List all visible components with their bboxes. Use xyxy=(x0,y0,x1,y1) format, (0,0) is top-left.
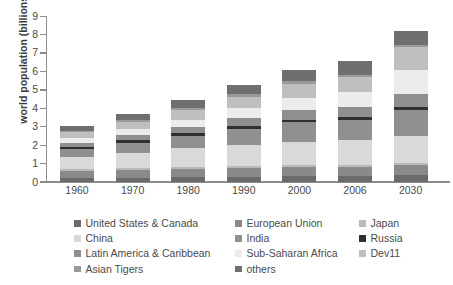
bar-segment[interactable] xyxy=(60,171,94,178)
bar-segment[interactable] xyxy=(394,165,428,174)
bar-segment[interactable] xyxy=(282,98,316,110)
bar-segment[interactable] xyxy=(282,167,316,176)
bar-segment[interactable] xyxy=(116,122,150,130)
bar-segment[interactable] xyxy=(227,145,261,166)
legend-swatch-icon xyxy=(359,250,366,257)
bar-segment[interactable] xyxy=(171,136,205,149)
legend-item[interactable]: others xyxy=(235,262,276,277)
legend-item[interactable]: China xyxy=(74,231,113,246)
bar-segment[interactable] xyxy=(116,153,150,168)
y-axis-tick-label: 0 xyxy=(16,177,38,188)
bar-segment[interactable] xyxy=(227,168,261,177)
legend-swatch-icon xyxy=(74,266,81,273)
x-axis-tick-label: 1990 xyxy=(219,185,269,196)
x-axis-tick-label: 2030 xyxy=(386,185,436,196)
legend-swatch-icon xyxy=(359,235,366,242)
bar-segment[interactable] xyxy=(394,110,428,137)
bar-segment[interactable] xyxy=(338,61,372,74)
bar-stack[interactable] xyxy=(227,85,261,182)
legend-item[interactable]: Russia xyxy=(359,231,403,246)
legend-label: Japan xyxy=(371,218,400,229)
bar-group[interactable] xyxy=(116,16,150,182)
bar-segment[interactable] xyxy=(171,100,205,108)
bar-segment[interactable] xyxy=(227,118,261,126)
bar-segment[interactable] xyxy=(338,167,372,176)
bar-segment[interactable] xyxy=(282,84,316,98)
bar-segment[interactable] xyxy=(338,77,372,92)
bar-segment[interactable] xyxy=(227,85,261,95)
legend-item[interactable]: Japan xyxy=(359,216,399,231)
x-axis-tick-label: 2006 xyxy=(330,185,380,196)
bar-segment[interactable] xyxy=(338,92,372,106)
bar-segment[interactable] xyxy=(338,176,372,182)
bar-segment[interactable] xyxy=(227,108,261,117)
legend-item[interactable]: Latin America & Caribbean xyxy=(74,246,210,261)
legend-item[interactable]: United States & Canada xyxy=(74,216,198,231)
legend-swatch-icon xyxy=(235,250,242,257)
legend-row: Latin America & CaribbeanSub-Saharan Afr… xyxy=(74,246,446,261)
bar-segment[interactable] xyxy=(282,122,316,141)
bar-segment[interactable] xyxy=(116,178,150,182)
legend-label: Sub-Saharan Africa xyxy=(247,248,338,259)
bar-segment[interactable] xyxy=(338,107,372,117)
bar-segment[interactable] xyxy=(394,94,428,107)
bar-group[interactable] xyxy=(60,16,94,182)
bar-segment[interactable] xyxy=(171,148,205,166)
bar-segment[interactable] xyxy=(282,142,316,165)
bar-segment[interactable] xyxy=(394,136,428,163)
bar-segment[interactable] xyxy=(227,129,261,145)
bar-segment[interactable] xyxy=(227,177,261,182)
bar-segment[interactable] xyxy=(171,177,205,182)
legend-label: Dev11 xyxy=(371,248,401,259)
bar-stack[interactable] xyxy=(394,31,428,182)
bar-stack[interactable] xyxy=(171,100,205,182)
bar-segment[interactable] xyxy=(227,97,261,109)
bar-segment[interactable] xyxy=(338,140,372,164)
bar-stack[interactable] xyxy=(282,70,316,182)
y-axis-tick-labels: 0123456789 xyxy=(16,0,40,285)
bar-segment[interactable] xyxy=(60,149,94,157)
y-axis-tick-label: 8 xyxy=(16,29,38,40)
legend-swatch-icon xyxy=(74,235,81,242)
legend-item[interactable]: Sub-Saharan Africa xyxy=(235,246,338,261)
bar-segment[interactable] xyxy=(171,120,205,127)
bar-segment[interactable] xyxy=(394,31,428,45)
legend-item[interactable]: Asian Tigers xyxy=(74,262,143,277)
bar-segment[interactable] xyxy=(60,178,94,182)
bar-segment[interactable] xyxy=(171,127,205,134)
legend-item[interactable]: European Union xyxy=(235,216,322,231)
y-axis-tick-label: 5 xyxy=(16,84,38,95)
legend-row: United States & CanadaEuropean UnionJapa… xyxy=(74,216,446,231)
legend-label: Latin America & Caribbean xyxy=(86,248,211,259)
bar-group[interactable] xyxy=(394,16,428,182)
bar-segment[interactable] xyxy=(116,170,150,178)
bar-segment[interactable] xyxy=(116,143,150,153)
chart-figure: world population (billions) 0123456789 1… xyxy=(0,0,453,285)
y-axis-tick-label: 4 xyxy=(16,103,38,114)
legend-swatch-icon xyxy=(359,220,366,227)
legend-swatch-icon xyxy=(74,220,81,227)
bar-group[interactable] xyxy=(227,16,261,182)
bar-group[interactable] xyxy=(171,16,205,182)
bar-segment[interactable] xyxy=(171,110,205,120)
bar-stack[interactable] xyxy=(116,114,150,182)
legend-label: India xyxy=(247,233,270,244)
bar-segment[interactable] xyxy=(394,175,428,182)
bar-segment[interactable] xyxy=(60,157,94,169)
bar-stack[interactable] xyxy=(338,61,372,182)
bar-segment[interactable] xyxy=(394,47,428,69)
bar-stack[interactable] xyxy=(60,126,94,182)
bar-segment[interactable] xyxy=(282,70,316,81)
bar-segment[interactable] xyxy=(394,70,428,95)
legend-label: European Union xyxy=(247,218,323,229)
bar-segment[interactable] xyxy=(338,120,372,141)
bar-segment[interactable] xyxy=(282,176,316,182)
legend-row: ChinaIndiaRussia xyxy=(74,231,446,246)
bar-segment[interactable] xyxy=(171,169,205,178)
bar-segment[interactable] xyxy=(282,110,316,120)
bar-group[interactable] xyxy=(338,16,372,182)
legend-swatch-icon xyxy=(235,220,242,227)
legend-item[interactable]: Dev11 xyxy=(359,246,400,261)
legend-item[interactable]: India xyxy=(235,231,269,246)
bar-group[interactable] xyxy=(282,16,316,182)
